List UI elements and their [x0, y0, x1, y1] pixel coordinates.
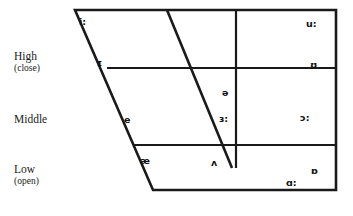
- axis-label-high-sub: (close): [14, 63, 40, 74]
- vowel-symbol-i-long: i:: [79, 17, 86, 27]
- axis-label-high-main: High: [14, 50, 40, 63]
- axis-label-middle: Middle: [14, 113, 47, 126]
- axis-label-middle-main: Middle: [14, 113, 47, 126]
- vowel-symbol-e: e: [124, 115, 130, 125]
- axis-label-low-sub: (open): [14, 176, 39, 187]
- vowel-symbol-rev-epsilon-long: ɜ:: [219, 114, 228, 124]
- vowel-symbol-script-a-long: ɑ:: [286, 178, 297, 188]
- axis-label-low: Low (open): [14, 163, 39, 187]
- vowel-chart: High (close) Middle Low (open) i: ɪ u: ʊ…: [0, 0, 353, 216]
- vowel-symbol-upsilon: ʊ: [310, 60, 317, 70]
- trapezoid-outline: [75, 10, 336, 190]
- vowel-symbol-turned-script-a: ɒ: [311, 166, 318, 176]
- vowel-symbol-small-cap-i: ɪ: [97, 58, 102, 68]
- vowel-symbol-turned-v: ʌ: [211, 158, 217, 168]
- vowel-symbol-u-long: u:: [306, 19, 317, 29]
- vowel-symbol-open-o-long: ɔ:: [300, 113, 309, 123]
- vowel-symbol-ash: æ: [140, 156, 150, 166]
- vowel-symbol-schwa: ə: [222, 88, 228, 98]
- vowel-quadrilateral-svg: [0, 0, 353, 216]
- axis-label-high: High (close): [14, 50, 40, 74]
- axis-label-low-main: Low: [14, 163, 39, 176]
